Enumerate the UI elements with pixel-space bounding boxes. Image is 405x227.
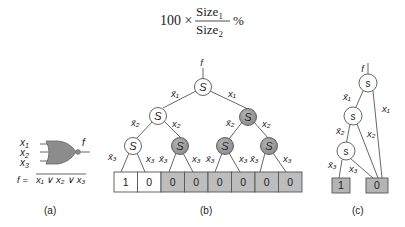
tree-node-x3-1: S [125, 138, 142, 155]
svg-text:S: S [129, 140, 137, 152]
nor-gate-icon [46, 141, 76, 164]
edge-label-l3-7: x₃ [282, 153, 292, 164]
figure: 100 × Size1 Size2 % x1 x2 x3 f f = x₁ ∨ … [0, 0, 405, 227]
formula-numerator: Size1 [196, 4, 223, 21]
svg-text:S: S [199, 81, 207, 93]
svg-text:0: 0 [170, 176, 176, 188]
formula-prefix: 100 × [160, 13, 192, 28]
svg-text:0: 0 [264, 176, 270, 188]
svg-text:0: 0 [217, 176, 223, 188]
bdd-node-x2: s [344, 107, 362, 125]
tree-node-x2-right: S [240, 109, 257, 126]
bdd-edge-x3-bar: x̄₃ [327, 159, 337, 170]
svg-text:0: 0 [146, 176, 152, 188]
leaf-2: 0 [161, 172, 185, 192]
nor-equation: f = x₁ ∨ x₂ ∨ x₃ [17, 174, 86, 185]
svg-text:S: S [265, 140, 273, 152]
caption-a: (a) [44, 205, 56, 216]
edge-label-l3-5: x₃ [238, 153, 248, 164]
edge-label-l2-left-right: x₂ [171, 118, 181, 129]
leaf-5: 0 [232, 172, 256, 192]
leaf-7: 0 [279, 172, 303, 192]
output-f-label: f [82, 137, 86, 148]
svg-text:0: 0 [287, 176, 293, 188]
edge-label-l3-4: x̄₃ [205, 153, 215, 164]
size-ratio-formula: 100 × Size1 Size2 % [160, 4, 244, 39]
svg-text:s: s [351, 111, 356, 122]
tree-node-x3-2: S [172, 138, 189, 155]
bdd-node-x3: s [337, 142, 355, 160]
edge-label-root-left: x̄₁ [170, 88, 179, 99]
svg-text:S: S [176, 140, 184, 152]
caption-b: (b) [200, 205, 212, 216]
bdd-edge-x1-bar: x̄₁ [342, 91, 351, 102]
svg-text:x₁ ∨ x₂ ∨ x₃: x₁ ∨ x₂ ∨ x₃ [35, 174, 85, 185]
svg-text:1: 1 [123, 176, 129, 188]
bdd-leaf-0: 0 [366, 178, 388, 193]
edge-label-l2-left-left: x̄₂ [130, 117, 140, 128]
edge-label-root-right: x₁ [227, 88, 236, 99]
bdd-edge-x2-bar: x̄₂ [335, 125, 345, 136]
bdd-edge-x1: x₁ [381, 103, 390, 114]
inverter-bubble-icon [76, 150, 81, 155]
tree-output-f: f [200, 57, 204, 68]
panel-c-reduced-bdd: s s s f x̄₁ x₁ x̄₂ x₂ x̄₃ x₃ 1 0 (c) [327, 63, 390, 216]
edge-label-l3-2: x̄₃ [158, 153, 168, 164]
svg-text:0: 0 [374, 179, 380, 191]
leaf-3: 0 [185, 172, 209, 192]
edge-label-l3-0: x̄₃ [107, 151, 117, 162]
panel-a-nor-gate: x1 x2 x3 f f = x₁ ∨ x₂ ∨ x₃ (a) [17, 137, 90, 216]
svg-text:0: 0 [193, 176, 199, 188]
svg-text:1: 1 [338, 179, 344, 191]
edge-label-l2-right-right: x₂ [261, 118, 271, 129]
svg-text:S: S [244, 111, 252, 123]
svg-text:s: s [344, 146, 349, 157]
svg-text:s: s [366, 78, 371, 89]
svg-text:0: 0 [240, 176, 246, 188]
edge-label-l2-right-left: x̄₂ [225, 117, 235, 128]
edge-label-l3-3: x₃ [191, 153, 201, 164]
svg-text:S: S [154, 110, 162, 122]
leaf-0: 1 [114, 172, 138, 192]
bdd-leaf-1: 1 [332, 178, 350, 193]
svg-text:S: S [221, 140, 229, 152]
panel-b-decision-tree: S S S S S S S [107, 57, 302, 216]
bdd-output-f: f [361, 63, 365, 74]
tree-node-root: S [195, 79, 212, 96]
formula-percent: % [233, 13, 244, 28]
formula-denominator: Size2 [196, 22, 223, 39]
tree-node-x2-left: S [150, 108, 167, 125]
leaf-4: 0 [208, 172, 232, 192]
bdd-node-x1: s [359, 74, 377, 92]
bdd-edge-x3: x₃ [348, 163, 358, 174]
edge-label-l3-6: x̄₃ [249, 153, 259, 164]
tree-node-x3-3: S [217, 138, 234, 155]
leaf-6: 0 [255, 172, 279, 192]
edge-label-l3-1: x₃ [145, 153, 155, 164]
svg-text:f =: f = [17, 174, 28, 185]
caption-c: (c) [352, 205, 364, 216]
bdd-edge-x2: x₂ [366, 128, 376, 139]
tree-node-x3-4: S [261, 138, 278, 155]
leaf-1: 0 [138, 172, 162, 192]
